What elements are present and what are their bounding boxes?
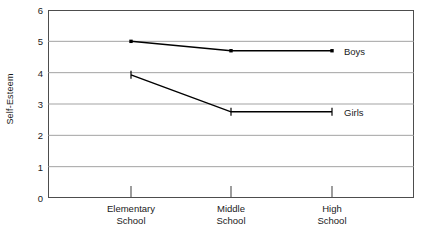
data-point-marker-boys <box>129 40 132 43</box>
x-axis-category-label: ElementarySchool <box>76 203 186 226</box>
x-axis-category-label-line: Middle <box>176 203 286 215</box>
x-axis-category-label-line: High <box>277 203 387 215</box>
chart-screenshot: Self-Esteem 0123456 ElementarySchoolMidd… <box>0 0 422 241</box>
x-axis-category-label-line: Elementary <box>76 203 186 215</box>
x-axis-category-label-line: School <box>277 215 387 227</box>
x-axis-category-label: MiddleSchool <box>176 203 286 226</box>
x-axis-category-label-line: School <box>76 215 186 227</box>
x-axis-ticks <box>131 186 332 198</box>
data-point-marker-boys <box>229 49 232 52</box>
series-line-girls <box>131 75 332 112</box>
series-label-girls: Girls <box>344 106 364 117</box>
data-point-marker-boys <box>330 49 333 52</box>
series-label-boys: Boys <box>344 45 365 56</box>
x-axis-category-label-line: School <box>176 215 286 227</box>
x-axis-category-label: HighSchool <box>277 203 387 226</box>
gridlines <box>48 41 414 166</box>
